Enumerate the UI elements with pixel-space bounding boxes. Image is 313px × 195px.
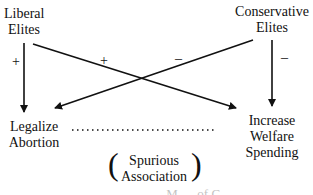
edge-conservative-to-abortion bbox=[55, 40, 253, 108]
spurious-label-line: Spurious bbox=[114, 153, 194, 169]
edge-liberal-to-welfare bbox=[33, 44, 236, 108]
node-label-line: Spending bbox=[232, 145, 312, 161]
node-liberal-elites: Liberal Elites bbox=[4, 6, 44, 38]
node-label-line: Legalize bbox=[6, 119, 62, 135]
edge-sign-conservative-abortion: – bbox=[175, 52, 182, 66]
bleed-through-text: … M … of C … bbox=[150, 186, 236, 195]
spurious-association-label: Spurious Association bbox=[114, 153, 194, 185]
spurious-label-line: Association bbox=[114, 169, 194, 185]
node-label-line: Liberal bbox=[4, 6, 44, 22]
edge-sign-liberal-welfare: + bbox=[100, 54, 108, 68]
node-conservative-elites: Conservative Elites bbox=[232, 4, 312, 36]
paren-close: ) bbox=[191, 148, 202, 180]
node-label-line: Elites bbox=[232, 20, 312, 36]
node-label-line: Welfare bbox=[232, 129, 312, 145]
edge-sign-conservative-welfare: – bbox=[281, 51, 288, 65]
node-label-line: Abortion bbox=[6, 135, 62, 151]
node-legalize-abortion: Legalize Abortion bbox=[6, 119, 62, 151]
node-increase-welfare: Increase Welfare Spending bbox=[232, 113, 312, 161]
node-label-line: Increase bbox=[232, 113, 312, 129]
edge-sign-liberal-abortion: + bbox=[12, 55, 20, 69]
node-label-line: Elites bbox=[4, 22, 44, 38]
node-label-line: Conservative bbox=[232, 4, 312, 20]
